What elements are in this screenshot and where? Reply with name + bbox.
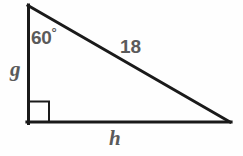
hypotenuse-length-label: 18 — [120, 37, 141, 56]
triangle-drawing — [0, 0, 243, 156]
geometry-figure: 60° 18 g h — [0, 0, 243, 156]
degree-symbol-icon: ° — [52, 25, 57, 40]
horizontal-leg-label-h: h — [109, 128, 121, 149]
vertical-leg-label-g: g — [10, 59, 21, 80]
hypotenuse-line — [28, 6, 230, 123]
angle-label-value: 60 — [31, 27, 52, 48]
angle-label-60-degrees: 60° — [31, 26, 56, 47]
right-angle-marker — [28, 102, 49, 123]
